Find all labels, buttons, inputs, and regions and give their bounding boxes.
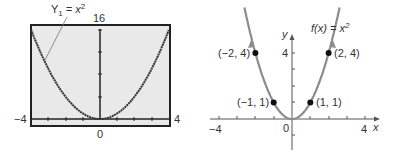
y-tick-4: 4: [282, 47, 288, 59]
xmin-label: −4: [14, 113, 27, 125]
x0-label: 0: [97, 128, 103, 140]
x-tick-4: 4: [361, 123, 367, 135]
x-tick-neg4: −4: [209, 123, 222, 135]
point-label-neg1: (−1, 1): [237, 96, 269, 108]
point-label-neg2: (−2, 4): [218, 47, 250, 59]
point-label-2: (2, 4): [334, 47, 360, 59]
y1-annotation: Y1 = x2: [51, 2, 86, 18]
y-axis-label: y: [281, 28, 289, 40]
figure: Y1 = x2 16 −4 4 0 (−2, 4) (−1, 1) (1, 1)…: [0, 0, 396, 154]
calculator-graph: Y1 = x2 16 −4 4 0: [14, 2, 180, 140]
function-label: f(x) = x2: [311, 21, 350, 34]
x-axis-label: x: [372, 121, 379, 133]
y-axis-arrow: [290, 34, 295, 40]
ymax-label: 16: [93, 12, 105, 24]
origin-label: 0: [283, 122, 289, 134]
point-label-1: (1, 1): [316, 96, 342, 108]
function-graph: (−2, 4) (−1, 1) (1, 1) (2, 4) f(x) = x2 …: [209, 8, 380, 151]
xmax-label: 4: [174, 113, 180, 125]
